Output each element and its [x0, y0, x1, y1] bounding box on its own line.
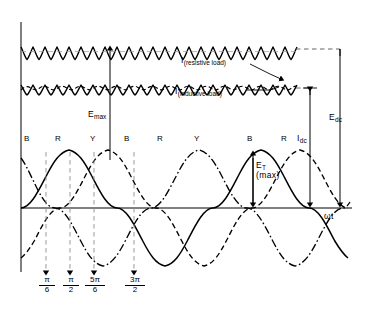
e-dc-subscript: dc: [335, 116, 342, 123]
commutation-guide-lines: [46, 152, 134, 272]
tick2-numerator: π: [63, 276, 79, 284]
phase-label-r-3: R: [281, 134, 287, 143]
tick1-denominator: 6: [39, 286, 55, 294]
phase-label-r-1: R: [55, 134, 61, 143]
x-tick-label-5pi-over-6: 5π 6: [85, 276, 105, 294]
phase-label-y-2: Y: [194, 134, 200, 143]
tick2-denominator: 2: [63, 286, 79, 294]
i-inductive-subscript: (inductive load): [178, 90, 222, 97]
phase-label-b-3: B: [247, 134, 253, 143]
annotation-e-dc: Edc: [329, 112, 342, 123]
annotation-i-resistive: I(resistive load): [181, 55, 226, 66]
tick3-numerator: 5π: [85, 276, 105, 284]
phase-label-y-1: Y: [90, 134, 96, 143]
tick4-denominator: 2: [125, 286, 145, 294]
waveform-canvas: [0, 0, 367, 315]
annotation-e-max: Emax: [88, 109, 106, 120]
i-resistive-subscript: (resistive load): [184, 59, 226, 66]
e-t-max-line2: (max): [256, 171, 280, 181]
x-tick-label-pi-over-6: π 6: [39, 276, 55, 294]
waveform-figure: Emax I(resistive load) I(inductive load)…: [0, 0, 367, 315]
phase-label-r-2: R: [157, 134, 163, 143]
annotation-i-inductive: I(inductive load): [175, 86, 222, 97]
leader-lines: [296, 49, 340, 88]
annotation-e-t-max: ET (max): [256, 161, 280, 181]
x-tick-label-3pi-over-2: 3π 2: [125, 276, 145, 294]
rectified-voltage-ripple: [21, 47, 297, 60]
annotation-omega-t-axis-label: ωt: [324, 211, 334, 221]
annotation-i-dc: Idc: [297, 133, 307, 144]
phase-label-b-1: B: [24, 134, 30, 143]
current-label-leaders: [247, 64, 281, 90]
tick1-numerator: π: [39, 276, 55, 284]
tick4-numerator: 3π: [125, 276, 145, 284]
current-inductive-load-trace: [21, 86, 297, 90]
i-dc-dimension-arrow: [303, 88, 317, 204]
e-max-subscript: max: [94, 113, 106, 120]
x-tick-label-pi-over-2: π 2: [63, 276, 79, 294]
tick3-denominator: 6: [85, 286, 105, 294]
i-dc-subscript: dc: [300, 137, 307, 144]
phase-label-b-2: B: [124, 134, 130, 143]
